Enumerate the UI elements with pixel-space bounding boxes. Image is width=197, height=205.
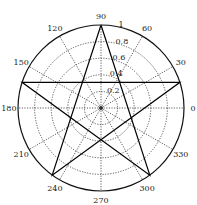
angular-tick-label: 60: [142, 24, 152, 33]
radial-tick-label: 0.8: [116, 37, 129, 46]
radial-tick-label: 0.6: [113, 53, 126, 62]
radial-tick-label: 0.4: [110, 69, 123, 78]
angular-tick-label: 300: [139, 184, 154, 193]
radial-tick-label: 0.2: [107, 86, 120, 95]
angular-tick-label: 0: [191, 104, 196, 113]
angular-tick-label: 330: [173, 150, 188, 159]
angular-tick-label: 270: [93, 196, 108, 205]
angular-grid-line: [60, 36, 102, 108]
angular-tick-label: 120: [47, 24, 62, 33]
angular-tick-label: 30: [176, 58, 186, 67]
angular-tick-label: 180: [1, 104, 16, 113]
angular-tick-label: 90: [96, 12, 106, 21]
radial-tick-label: 1: [118, 20, 123, 29]
angular-tick-label: 150: [14, 58, 29, 67]
polar-chart: 03060901201501802102402703003300.20.40.6…: [0, 0, 197, 205]
polar-grid: [18, 25, 184, 191]
angular-grid-line: [29, 67, 101, 109]
angular-tick-label: 240: [47, 184, 62, 193]
angular-tick-label: 210: [14, 150, 29, 159]
tick-labels: 03060901201501802102402703003300.20.40.6…: [1, 12, 195, 205]
